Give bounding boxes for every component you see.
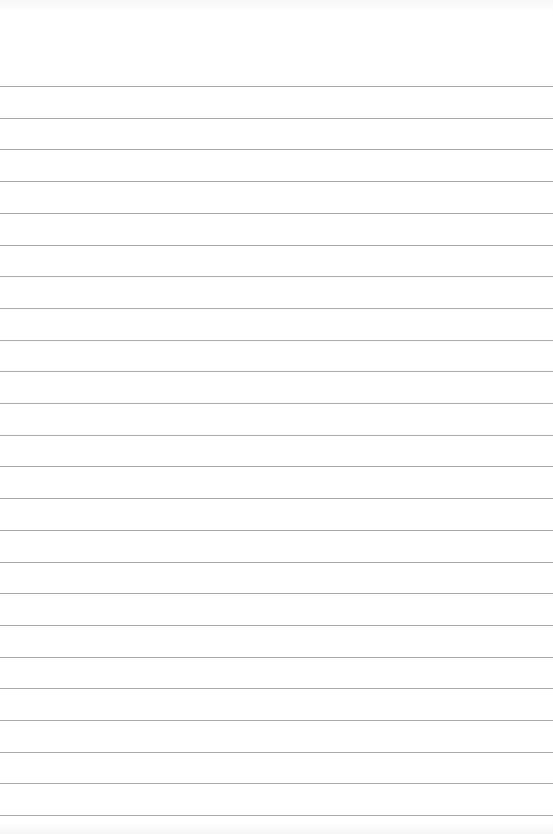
- ruled-line: [0, 149, 553, 150]
- ruled-line: [0, 530, 553, 531]
- ruled-line: [0, 403, 553, 404]
- ruled-line: [0, 783, 553, 784]
- lined-paper: [0, 0, 553, 834]
- ruled-line: [0, 340, 553, 341]
- ruled-line: [0, 720, 553, 721]
- ruled-line: [0, 308, 553, 309]
- ruled-line: [0, 593, 553, 594]
- ruled-line: [0, 245, 553, 246]
- ruled-line: [0, 276, 553, 277]
- ruled-line: [0, 815, 553, 816]
- ruled-line: [0, 688, 553, 689]
- ruled-line: [0, 371, 553, 372]
- ruled-line: [0, 213, 553, 214]
- ruled-line: [0, 435, 553, 436]
- ruled-line: [0, 498, 553, 499]
- ruled-line: [0, 562, 553, 563]
- ruled-line: [0, 625, 553, 626]
- ruled-line: [0, 86, 553, 87]
- ruled-line: [0, 752, 553, 753]
- ruled-line: [0, 466, 553, 467]
- ruled-line: [0, 181, 553, 182]
- ruled-line: [0, 118, 553, 119]
- ruled-line: [0, 657, 553, 658]
